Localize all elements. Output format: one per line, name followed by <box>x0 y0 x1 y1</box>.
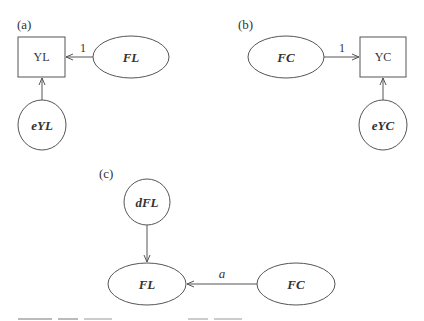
diagram-canvas: (a) YL FL 1 eYL (b) FC YC 1 eYC (c) dFL … <box>0 0 424 321</box>
loading-label-a: 1 <box>80 41 86 55</box>
error-label-eyc: eYC <box>372 118 395 133</box>
figure-caption-clipped <box>18 318 242 320</box>
caption-fragment <box>214 318 242 320</box>
panel-c: (c) dFL FL FC a <box>99 166 335 305</box>
panel-a-label: (a) <box>17 17 31 32</box>
panel-b-label: (b) <box>238 17 253 32</box>
caption-fragment <box>58 318 78 320</box>
observed-label-yl: YL <box>34 50 50 64</box>
structural-path-label: a <box>219 266 226 281</box>
panel-b: (b) FC YC 1 eYC <box>238 17 407 150</box>
panel-a: (a) YL FL 1 eYL <box>17 17 169 150</box>
caption-fragment <box>18 318 52 320</box>
loading-label-b: 1 <box>339 41 345 55</box>
error-label-eyl: eYL <box>31 118 53 133</box>
factor-label-fc: FC <box>276 50 295 65</box>
caption-fragment <box>188 318 208 320</box>
observed-label-yc: YC <box>375 50 392 64</box>
panel-c-label: (c) <box>99 166 113 181</box>
caption-fragment <box>84 318 112 320</box>
factor-label-fc-c: FC <box>286 277 305 292</box>
disturbance-label-dfl: dFL <box>135 195 158 210</box>
factor-label-fl-c: FL <box>138 277 156 292</box>
factor-label-fl: FL <box>122 50 140 65</box>
